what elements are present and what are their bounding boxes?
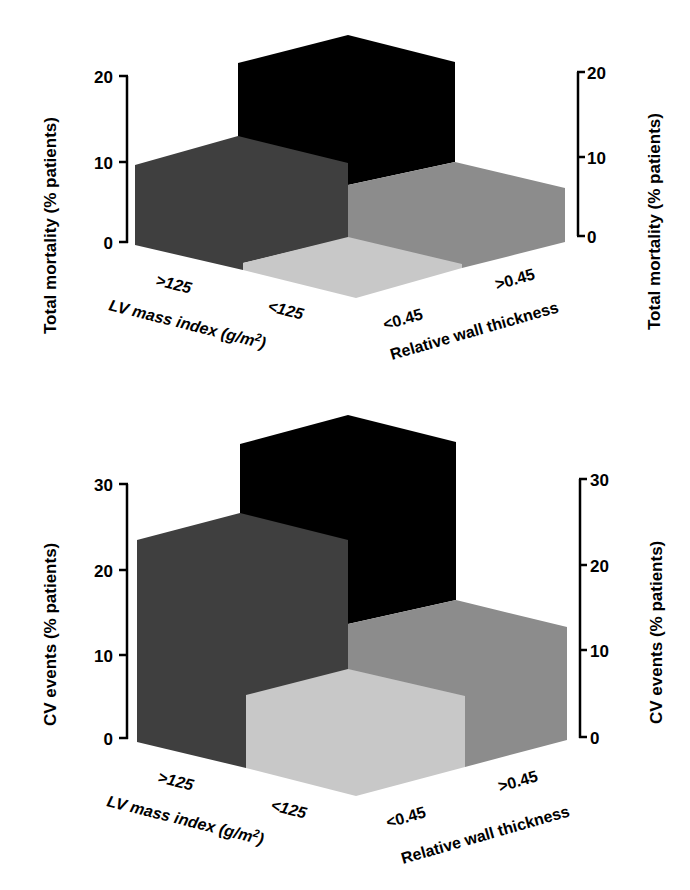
y-axis-label-right: CV events (% patients) (647, 541, 666, 724)
z-category-low: <0.45 (381, 305, 425, 333)
z-category-high: >0.45 (496, 767, 540, 795)
tick-30: 30 (94, 476, 113, 495)
tick-20-right: 20 (587, 64, 606, 83)
y-axis-label-left: CV events (% patients) (41, 543, 60, 726)
tick-10: 10 (94, 154, 113, 173)
x-axis-label: LV mass index (g/m2) (107, 294, 268, 351)
left-y-axis: 20 10 0 Total mortality (% patients) (41, 68, 128, 334)
x-category-high: >125 (156, 768, 196, 793)
tick-10-right: 10 (590, 642, 609, 661)
z-category-high: >0.45 (493, 265, 537, 293)
right-y-axis: 30 20 10 0 CV events (% patients) (579, 471, 666, 748)
y-axis-label-right: Total mortality (% patients) (645, 113, 664, 330)
z-category-low: <0.45 (384, 803, 428, 831)
x-category-high: >125 (154, 271, 194, 296)
tick-20: 20 (94, 68, 113, 87)
cv-events-chart: 30 20 10 0 CV events (% patients) 30 20 … (0, 400, 690, 890)
tick-20: 20 (94, 562, 113, 581)
tick-0-right: 0 (590, 729, 599, 748)
tick-0-right: 0 (587, 228, 596, 247)
right-y-axis: 20 10 0 Total mortality (% patients) (577, 64, 664, 330)
tick-0: 0 (104, 730, 113, 749)
y-axis-label-left: Total mortality (% patients) (41, 117, 60, 334)
total-mortality-chart: 20 10 0 Total mortality (% patients) 20 … (0, 0, 690, 400)
tick-30-right: 30 (590, 471, 609, 490)
x-category-low: <125 (269, 796, 309, 821)
cv-events-plot: 30 20 10 0 CV events (% patients) 30 20 … (0, 400, 690, 890)
tick-10-right: 10 (587, 149, 606, 168)
tick-10: 10 (94, 647, 113, 666)
left-y-axis: 30 20 10 0 CV events (% patients) (41, 476, 128, 749)
total-mortality-plot: 20 10 0 Total mortality (% patients) 20 … (0, 0, 690, 400)
x-category-low: <125 (266, 297, 306, 322)
tick-0: 0 (104, 234, 113, 253)
tick-20-right: 20 (590, 557, 609, 576)
x-axis-label: LV mass index (g/m2) (105, 790, 266, 847)
